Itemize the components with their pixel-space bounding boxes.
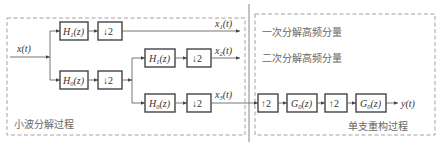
reconstruction-label: 单支重构过程 — [348, 120, 408, 132]
svg-text:G0(z): G0(z) — [360, 98, 382, 110]
decomposition-frame — [7, 18, 245, 135]
svg-text:H0(z): H0(z) — [148, 98, 171, 110]
downsample-level2-high: ↓2 — [187, 49, 211, 67]
svg-text:H1(z): H1(z) — [148, 53, 171, 65]
svg-text:↓2: ↓2 — [103, 26, 113, 37]
second-high-label: 二次分解高频分量 — [262, 52, 342, 64]
decomposition-label: 小波分解过程 — [14, 118, 74, 130]
filter-g0-2: G0(z) — [356, 94, 386, 112]
downsample-level1-high: ↓2 — [98, 22, 122, 40]
filter-h0-level1: H0(z) — [60, 71, 88, 89]
filter-h0-level2: H0(z) — [145, 94, 175, 112]
downsample-level1-low: ↓2 — [98, 71, 122, 89]
svg-text:H1(z): H1(z) — [62, 26, 85, 38]
wavelet-diagram: x(t) H1(z) ↓2 x1(t) H0(z) ↓2 H1(z) ↓2 x2… — [0, 0, 441, 146]
filter-g0-1: G0(z) — [287, 94, 317, 112]
downsample-level2-low: ↓2 — [187, 94, 211, 112]
svg-text:↑2: ↑2 — [261, 98, 271, 109]
filter-h1-level1: H1(z) — [60, 22, 88, 40]
svg-text:↓2: ↓2 — [192, 53, 202, 64]
svg-text:↓2: ↓2 — [103, 75, 113, 86]
x3-label: x3(t) — [214, 89, 233, 101]
upsample-1: ↑2 — [258, 94, 278, 112]
x2-label: x2(t) — [214, 45, 233, 57]
svg-text:H0(z): H0(z) — [62, 75, 85, 87]
input-label: x(t) — [16, 43, 32, 55]
x1-label: x1(t) — [214, 18, 233, 30]
svg-text:G0(z): G0(z) — [291, 98, 313, 110]
svg-text:↑2: ↑2 — [329, 98, 339, 109]
svg-text:↓2: ↓2 — [192, 98, 202, 109]
upsample-2: ↑2 — [325, 94, 347, 112]
output-label: y(t) — [400, 98, 416, 110]
first-high-label: 一次分解高频分量 — [262, 26, 342, 38]
filter-h1-level2: H1(z) — [145, 49, 175, 67]
